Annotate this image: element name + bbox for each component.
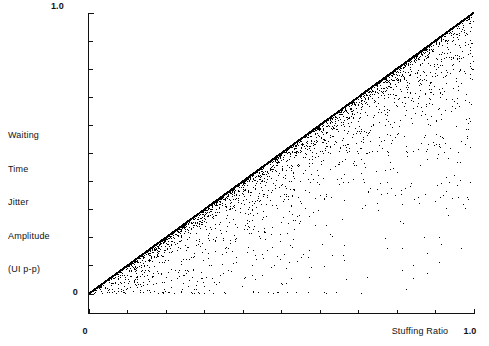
x-axis-title: Stuffing Ratio [378,326,462,337]
y-axis-title-line-2: Time [8,164,82,176]
y-axis-title-line-1: Waiting [8,130,82,142]
x-axis-max-tick-label: 1.0 [456,326,484,337]
y-axis-title-line-3: Jitter [8,197,82,209]
y-axis-title-line-4: Amplitude [8,231,82,243]
y-axis-max-tick-label: 1.0 [40,1,64,12]
y-axis-title-line-5: (UI p-p) [8,264,82,276]
y-axis-title: Waiting Time Jitter Amplitude (UI p-p) [8,108,82,298]
jitter-scatter-figure: 1.0 0 Waiting Time Jitter Amplitude (UI … [0,0,489,346]
x-axis-zero-tick-label: 0 [78,326,92,337]
